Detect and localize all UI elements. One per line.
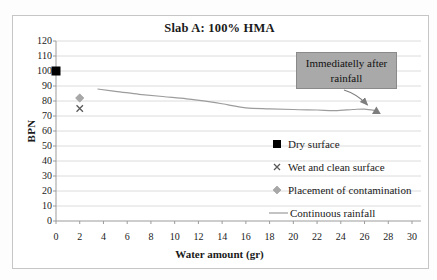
y-tick-label: 10: [28, 200, 52, 212]
y-tick-label: 110: [28, 50, 52, 62]
x-tick-label: 4: [93, 231, 113, 243]
y-tick-label: 20: [28, 185, 52, 197]
y-tick-label: 0: [28, 215, 52, 227]
legend-item-continuous-rainfall: Continuous rainfall: [269, 206, 434, 219]
y-tick-label: 40: [28, 155, 52, 167]
line-marker-icon: [269, 207, 289, 219]
x-tick-label: 24: [331, 231, 351, 243]
square-marker-icon: [269, 138, 285, 150]
annotation-callout: Immediatelly after rainfall: [296, 52, 397, 89]
legend-label: Wet and clean surface: [288, 161, 385, 173]
x-tick-label: 20: [283, 231, 303, 243]
x-tick-label: 22: [307, 231, 327, 243]
x-tick-label: 16: [236, 231, 256, 243]
chart-screenshot: Slab A: 100% HMA 01020304050607080901001…: [0, 0, 437, 280]
legend-item-placement-contamination: Placement of contamination: [269, 183, 434, 196]
y-tick-label: 90: [28, 80, 52, 92]
x-axis-title: Water amount (gr): [12, 248, 427, 260]
legend-label: Placement of contamination: [288, 184, 411, 196]
x-tick-label: 14: [212, 231, 232, 243]
legend-label: Continuous rainfall: [290, 207, 375, 219]
y-tick-label: 120: [28, 35, 52, 47]
x-tick-label: 12: [188, 231, 208, 243]
x-tick-label: 2: [70, 231, 90, 243]
diamond-marker-icon: [269, 184, 285, 196]
x-tick-label: 30: [402, 231, 422, 243]
legend-item-wet-clean-surface: Wet and clean surface: [269, 160, 434, 173]
y-tick-label: 100: [28, 65, 52, 77]
legend-label: Dry surface: [288, 138, 340, 150]
x-tick-label: 26: [355, 231, 375, 243]
y-axis-title: BPN: [25, 120, 37, 143]
x-tick-label: 10: [165, 231, 185, 243]
y-tick-label: 80: [28, 95, 52, 107]
x-tick-label: 28: [378, 231, 398, 243]
chart-legend: Dry surface Wet and clean surface Placem…: [269, 137, 434, 229]
legend-item-dry-surface: Dry surface: [269, 137, 434, 150]
y-tick-label: 30: [28, 170, 52, 182]
x-tick-label: 8: [141, 231, 161, 243]
x-marker-icon: [269, 161, 285, 173]
x-tick-label: 18: [260, 231, 280, 243]
x-tick-label: 0: [46, 231, 66, 243]
chart-title: Slab A: 100% HMA: [12, 21, 427, 36]
x-tick-label: 6: [117, 231, 137, 243]
